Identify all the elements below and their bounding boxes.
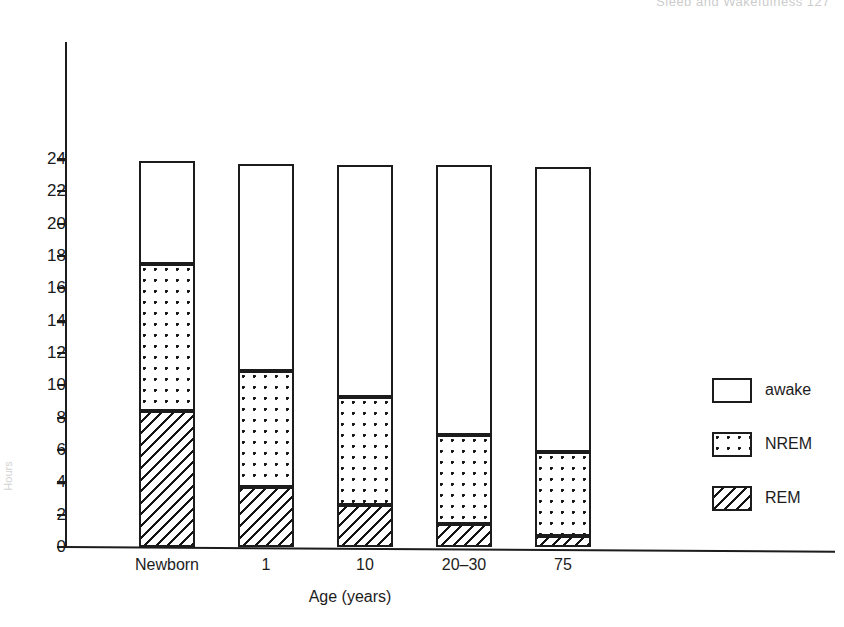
bar-segment-nrem[interactable] [139, 264, 195, 411]
y-tick-mark [57, 514, 66, 516]
bar-segment-nrem[interactable] [436, 435, 492, 524]
y-tick-mark [57, 190, 66, 192]
bar-segment-nrem[interactable] [337, 397, 393, 505]
y-tick-mark [57, 223, 66, 225]
y-tick-mark [57, 255, 66, 257]
legend-swatch-awake [712, 378, 752, 403]
bar-segment-awake[interactable] [535, 167, 591, 452]
bar-10[interactable] [337, 165, 393, 547]
bar-segment-rem[interactable] [535, 536, 591, 547]
bar-75[interactable] [535, 167, 591, 547]
stacked-bar-chart: 024681012141618202224 Newborn11020–3075 … [0, 0, 844, 627]
y-tick-mark [57, 320, 66, 322]
bar-20-30[interactable] [436, 165, 492, 547]
y-tick-mark [57, 287, 66, 289]
bar-1[interactable] [238, 164, 294, 547]
bar-newborn[interactable] [139, 161, 195, 547]
x-category-label-4: 75 [503, 556, 623, 574]
bar-segment-awake[interactable] [337, 165, 393, 396]
legend-item-rem[interactable]: REM [712, 484, 842, 512]
bar-segment-rem[interactable] [139, 411, 195, 547]
bar-segment-awake[interactable] [436, 165, 492, 435]
bar-segment-rem[interactable] [436, 524, 492, 547]
y-tick-mark [57, 158, 66, 160]
legend-label: REM [765, 490, 801, 506]
y-tick-mark [57, 449, 66, 451]
bar-segment-rem[interactable] [238, 487, 294, 547]
legend-label: awake [765, 382, 811, 398]
bar-segment-awake[interactable] [238, 164, 294, 371]
y-tick-mark [57, 546, 66, 548]
x-axis-title: Age (years) [240, 588, 460, 606]
bar-segment-nrem[interactable] [238, 371, 294, 487]
y-tick-mark [57, 417, 66, 419]
y-tick-mark [57, 384, 66, 386]
y-tick-mark [57, 481, 66, 483]
y-tick-mark [57, 352, 66, 354]
legend-swatch-rem [712, 486, 752, 511]
legend-label: NREM [765, 436, 812, 452]
chart-legend: awakeNREMREM [712, 376, 842, 538]
bar-segment-awake[interactable] [139, 161, 195, 264]
legend-item-awake[interactable]: awake [712, 376, 842, 404]
x-axis-line [65, 546, 835, 553]
legend-item-nrem[interactable]: NREM [712, 430, 842, 458]
bar-segment-nrem[interactable] [535, 452, 591, 536]
legend-swatch-nrem [712, 432, 752, 457]
bar-segment-rem[interactable] [337, 505, 393, 547]
